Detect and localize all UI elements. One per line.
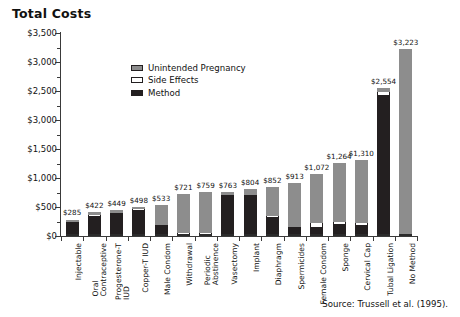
chart-figure: Total Costs $3,500$3,000$2,500$3,000$1,5… — [0, 0, 460, 317]
source-note: Source: Trussell et al. (1995). — [322, 299, 448, 309]
y-tick-mark — [55, 236, 61, 237]
x-category-label: Withdrawal — [186, 243, 194, 286]
y-axis-labels: $3,500$3,000$2,500$3,000$1,500$1,000$500… — [0, 0, 57, 317]
x-tick-mark — [128, 236, 129, 241]
x-tick-mark — [284, 236, 285, 241]
bar-value-label: $1,072 — [304, 163, 329, 172]
x-tick-mark — [328, 236, 329, 241]
bar-segment-method — [66, 222, 79, 236]
y-tick-mark — [55, 149, 61, 150]
bar-segment-unintended-pregnancy — [155, 205, 168, 224]
legend-label: Side Effects — [148, 75, 199, 85]
bar-segment-method — [310, 227, 323, 236]
y-tick-mark — [55, 120, 61, 121]
y-tick-minor — [57, 164, 61, 165]
bar-segment-unintended-pregnancy — [355, 160, 368, 223]
bar-value-label: $721 — [174, 183, 192, 192]
bar-segment-method — [199, 234, 212, 236]
bar-segment-method — [266, 217, 279, 236]
y-tick-mark — [55, 33, 61, 34]
y-tick-label: $3,000 — [27, 57, 57, 67]
x-tick-mark — [195, 236, 196, 241]
y-tick-mark — [55, 62, 61, 63]
x-category-label: Sponge — [342, 243, 350, 272]
bar — [310, 174, 323, 236]
y-tick-minor — [57, 135, 61, 136]
bar — [333, 163, 346, 236]
bar-value-label: $3,223 — [393, 38, 418, 47]
x-category-label: Copper-T IUD — [142, 243, 150, 293]
y-tick-mark — [55, 91, 61, 92]
y-tick-label: $3,000 — [27, 115, 57, 125]
bar-segment-method — [155, 225, 168, 236]
x-category-label: Progesterone-TIUD — [115, 243, 131, 300]
bar — [88, 212, 101, 236]
x-category-label: Spermicides — [298, 243, 306, 290]
bar-value-label: $804 — [241, 178, 259, 187]
x-category-label: Cervical Cap — [364, 243, 372, 291]
legend-item: Side Effects — [131, 75, 246, 86]
x-tick-mark — [395, 236, 396, 241]
y-tick-minor — [57, 48, 61, 49]
bar-segment-unintended-pregnancy — [288, 183, 301, 226]
bar — [110, 210, 123, 236]
x-tick-mark — [261, 236, 262, 241]
y-tick-label: $500 — [35, 202, 57, 212]
legend-item: Method — [131, 87, 246, 98]
legend-swatch — [131, 90, 143, 96]
x-tick-mark — [239, 236, 240, 241]
x-category-label: Male Condom — [164, 243, 172, 295]
y-tick-mark — [55, 207, 61, 208]
bar-value-label: $759 — [196, 181, 214, 190]
x-category-label: Female Condom — [320, 243, 328, 305]
bar-segment-unintended-pregnancy — [266, 187, 279, 216]
x-tick-mark — [306, 236, 307, 241]
bar-segment-method — [88, 216, 101, 236]
bar-segment-method — [221, 195, 234, 236]
y-tick-minor — [57, 77, 61, 78]
bar-segment-method — [288, 227, 301, 236]
y-tick-label: $1,500 — [27, 144, 57, 154]
bar-segment-method — [177, 234, 190, 236]
bar — [177, 194, 190, 236]
legend-item: Unintended Pregnancy — [131, 62, 246, 73]
x-category-label: PeriodicAbstinence — [204, 243, 220, 285]
bar — [199, 192, 212, 236]
x-category-label: No Method — [409, 243, 417, 284]
y-tick-label: $2,500 — [27, 86, 57, 96]
x-tick-mark — [373, 236, 374, 241]
bar — [266, 187, 279, 236]
y-tick-minor — [57, 193, 61, 194]
bar — [244, 189, 257, 236]
legend-label: Unintended Pregnancy — [148, 63, 246, 73]
x-tick-mark — [417, 236, 418, 241]
x-tick-mark — [217, 236, 218, 241]
bar-value-label: $1,310 — [349, 149, 374, 158]
bar-value-label: $285 — [63, 208, 81, 217]
bar-value-label: $533 — [152, 194, 170, 203]
x-tick-mark — [350, 236, 351, 241]
y-tick-label: $3,500 — [27, 28, 57, 38]
bar-segment-unintended-pregnancy — [199, 192, 212, 233]
bar — [355, 160, 368, 236]
bar-segment-method — [110, 213, 123, 236]
legend-swatch — [131, 77, 143, 83]
bar — [288, 183, 301, 236]
bar-value-label: $449 — [107, 199, 125, 208]
x-tick-mark — [106, 236, 107, 241]
bar-segment-method — [377, 95, 390, 236]
y-tick-minor — [57, 222, 61, 223]
bar — [399, 49, 412, 236]
bar-value-label: $763 — [219, 181, 237, 190]
x-tick-mark — [83, 236, 84, 241]
bar — [66, 219, 79, 236]
legend-swatch — [131, 65, 143, 71]
bar — [132, 207, 145, 236]
bar-value-label: $2,554 — [371, 77, 396, 86]
bar-segment-unintended-pregnancy — [310, 174, 323, 223]
bar — [155, 205, 168, 236]
bar-segment-method — [355, 225, 368, 236]
bar-segment-method — [132, 210, 145, 236]
x-category-label: Vasectomy — [231, 243, 239, 285]
bar-value-label: $422 — [85, 201, 103, 210]
